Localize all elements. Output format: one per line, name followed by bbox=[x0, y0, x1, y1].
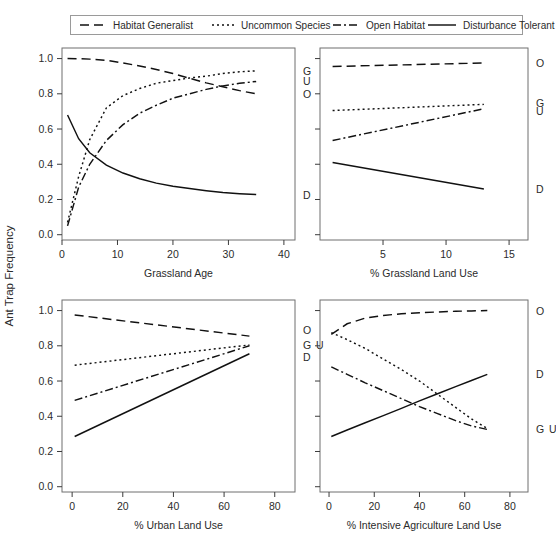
curve-o bbox=[331, 311, 487, 335]
curve-d bbox=[68, 115, 257, 195]
chart-panel-top-right: 51015% Grassland Land UseOGUD bbox=[315, 48, 544, 279]
x-tick-label: 5 bbox=[380, 248, 386, 260]
chart-panel-bottom-left: 0.00.20.40.60.81.0020406080% Urban Land … bbox=[38, 300, 323, 531]
curve-g bbox=[68, 71, 257, 222]
curve-end-label-d: D bbox=[536, 368, 544, 380]
plot-frame bbox=[320, 300, 528, 492]
legend-label-o: Open Habitat bbox=[366, 20, 425, 31]
x-axis-title: % Grassland Land Use bbox=[370, 267, 478, 279]
curve-end-label-d: D bbox=[536, 183, 544, 195]
legend-label-g: Habitat Generalist bbox=[113, 20, 193, 31]
x-tick-label: 0 bbox=[59, 248, 65, 260]
x-tick-label: 20 bbox=[368, 500, 380, 512]
x-tick-label: 10 bbox=[112, 248, 124, 260]
y-tick-label: 1.0 bbox=[38, 304, 53, 316]
curve-d bbox=[75, 354, 250, 437]
curve-o bbox=[75, 315, 250, 336]
curve-g bbox=[333, 104, 484, 110]
ant-trap-frequency-figure: Habitat GeneralistUncommon SpeciesOpen H… bbox=[0, 0, 556, 553]
curve-end-label-o: O bbox=[303, 88, 311, 100]
y-tick-label: 0.2 bbox=[38, 193, 53, 205]
x-tick-label: 60 bbox=[459, 500, 471, 512]
chart-legend: Habitat GeneralistUncommon SpeciesOpen H… bbox=[71, 16, 555, 35]
x-axis-title: % Urban Land Use bbox=[134, 519, 223, 531]
x-tick-label: 20 bbox=[167, 248, 179, 260]
chart-panel-top-left: 0.00.20.40.60.81.0010203040Grassland Age… bbox=[38, 48, 311, 279]
curve-end-label-u: U bbox=[303, 75, 311, 87]
x-tick-label: 80 bbox=[504, 500, 516, 512]
y-tick-label: 0.0 bbox=[38, 480, 53, 492]
x-tick-label: 60 bbox=[218, 500, 230, 512]
x-tick-label: 0 bbox=[326, 500, 332, 512]
curve-end-label-u: U bbox=[549, 423, 556, 435]
x-tick-label: 40 bbox=[414, 500, 426, 512]
curve-end-label-g: G bbox=[536, 423, 544, 435]
legend-label-u: Uncommon Species bbox=[241, 20, 330, 31]
curve-end-label-o: O bbox=[536, 57, 544, 69]
plot-frame bbox=[62, 48, 295, 240]
y-tick-label: 0.2 bbox=[38, 445, 53, 457]
y-tick-label: 0.8 bbox=[38, 87, 53, 99]
curve-end-label-o: O bbox=[303, 324, 311, 336]
curve-o bbox=[333, 63, 484, 67]
y-tick-label: 1.0 bbox=[38, 52, 53, 64]
y-tick-label: 0.6 bbox=[38, 123, 53, 135]
x-tick-label: 0 bbox=[69, 500, 75, 512]
x-tick-label: 40 bbox=[168, 500, 180, 512]
curve-o bbox=[68, 59, 257, 94]
y-tick-label: 0.8 bbox=[38, 339, 53, 351]
x-tick-label: 15 bbox=[503, 248, 515, 260]
plot-frame bbox=[320, 48, 528, 240]
curve-u bbox=[75, 346, 250, 401]
curve-end-label-o: O bbox=[536, 305, 544, 317]
legend-label-d: Disturbance Tolerant bbox=[463, 20, 555, 31]
y-axis-title: Ant Trap Frequency bbox=[3, 225, 15, 326]
curve-u bbox=[333, 109, 484, 141]
curve-end-label-u: U bbox=[536, 105, 544, 117]
curve-g bbox=[75, 345, 250, 365]
y-tick-label: 0.4 bbox=[38, 410, 53, 422]
y-tick-label: 0.4 bbox=[38, 158, 53, 170]
curve-end-label-d: D bbox=[303, 351, 311, 363]
curve-u bbox=[68, 81, 257, 225]
x-tick-label: 40 bbox=[278, 248, 290, 260]
curve-d bbox=[333, 163, 484, 189]
x-tick-label: 30 bbox=[223, 248, 235, 260]
curve-end-label-d: D bbox=[303, 189, 311, 201]
x-tick-label: 80 bbox=[269, 500, 281, 512]
chart-panel-bottom-right: 020406080% Intensive Agriculture Land Us… bbox=[315, 300, 556, 531]
figure-canvas: Habitat GeneralistUncommon SpeciesOpen H… bbox=[0, 0, 556, 553]
y-tick-label: 0.0 bbox=[38, 228, 53, 240]
y-tick-label: 0.6 bbox=[38, 375, 53, 387]
x-axis-title: % Intensive Agriculture Land Use bbox=[347, 519, 502, 531]
curve-end-label-g: G bbox=[303, 339, 311, 351]
curve-g bbox=[331, 333, 487, 429]
plot-frame bbox=[62, 300, 295, 492]
curve-u bbox=[331, 367, 487, 430]
curve-d bbox=[331, 374, 487, 436]
x-axis-title: Grassland Age bbox=[144, 267, 213, 279]
x-tick-label: 10 bbox=[440, 248, 452, 260]
x-tick-label: 20 bbox=[117, 500, 129, 512]
